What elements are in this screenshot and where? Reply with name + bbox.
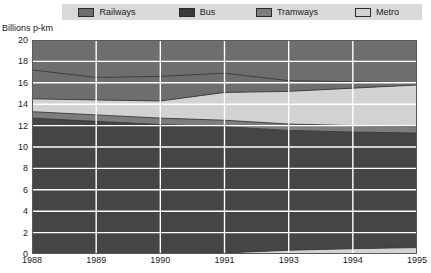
x-axis-tick: 1990 <box>150 256 170 265</box>
y-axis-tick: 12 <box>18 122 28 131</box>
chart-legend: Railways Bus Tramways Metro <box>62 4 422 20</box>
x-axis-tick: 1994 <box>343 256 363 265</box>
legend-swatch-icon <box>256 8 272 17</box>
y-axis-tick: 18 <box>18 57 28 66</box>
legend-label: Metro <box>376 8 399 17</box>
x-axis-tick: 1991 <box>214 256 234 265</box>
legend-swatch-icon <box>355 8 371 17</box>
y-axis-tick: 10 <box>18 143 28 152</box>
y-axis-tick: 8 <box>23 164 28 173</box>
legend-label: Tramways <box>277 8 318 17</box>
y-axis-tick: 16 <box>18 79 28 88</box>
legend-label: Bus <box>200 8 216 17</box>
legend-item-metro: Metro <box>332 8 422 17</box>
y-axis-tick: 2 <box>23 229 28 238</box>
x-axis: 1988 1989 1990 1991 1993 1994 1995 <box>32 256 417 270</box>
legend-item-tramways: Tramways <box>242 8 332 17</box>
chart-canvas <box>32 40 417 254</box>
y-axis: 20 18 16 14 12 10 8 6 4 2 0 <box>0 40 28 254</box>
x-axis-tick: 1995 <box>407 256 427 265</box>
stacked-area-chart <box>32 40 417 254</box>
y-axis-tick: 20 <box>18 36 28 45</box>
x-axis-tick: 1989 <box>86 256 106 265</box>
x-axis-tick: 1988 <box>22 256 42 265</box>
legend-label: Railways <box>99 8 135 17</box>
legend-item-bus: Bus <box>152 8 242 17</box>
y-axis-tick: 6 <box>23 186 28 195</box>
x-axis-tick: 1993 <box>279 256 299 265</box>
y-axis-tick: 4 <box>23 207 28 216</box>
legend-swatch-icon <box>179 8 195 17</box>
y-axis-tick: 14 <box>18 100 28 109</box>
legend-swatch-icon <box>78 8 94 17</box>
y-axis-title: Billions p-km <box>2 23 53 33</box>
legend-item-railways: Railways <box>62 8 152 17</box>
